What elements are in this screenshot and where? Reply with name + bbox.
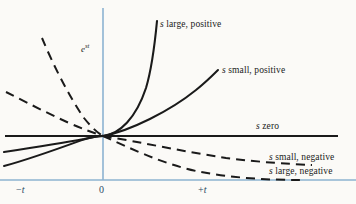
annotation-s-large-positive: s large, positive xyxy=(160,19,221,29)
annotation-s-large-negative: s large, negative xyxy=(269,166,333,176)
y-axis-label: est xyxy=(81,42,89,54)
exponential-curves-figure: est s large, positive s small, positive … xyxy=(0,0,356,204)
annotation-s-zero: s zero xyxy=(256,121,279,131)
x-tick-origin: 0 xyxy=(99,184,104,195)
curve-s-small-positive xyxy=(103,70,218,136)
annotation-s-small-negative: s small, negative xyxy=(269,152,334,162)
x-tick-positive-t: +t xyxy=(198,184,206,195)
x-tick-negative-t: −t xyxy=(16,184,24,195)
curve-s-small-positive-negative-t xyxy=(6,92,103,136)
curve-s-large-negative-negative-t xyxy=(4,136,103,166)
annotation-s-small-positive: s small, positive xyxy=(222,65,285,75)
curve-s-large-positive-negative-t xyxy=(42,38,103,136)
y-axis-label-exponent: st xyxy=(85,42,89,49)
